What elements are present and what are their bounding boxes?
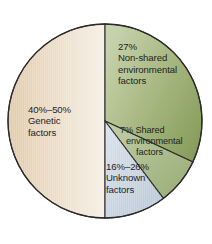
pie-chart-graphic [0,0,212,244]
pie-slice-genetic-texture [8,24,105,218]
pie-chart: 27% Non-shared environmental factors 40%… [0,0,212,244]
